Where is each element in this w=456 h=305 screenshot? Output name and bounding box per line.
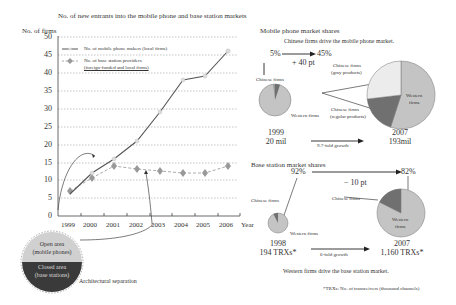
y-tick: 25	[44, 122, 52, 131]
mobile-2007-western-label-1: Western	[406, 93, 422, 98]
line-chart-title: No. of new entrants into the mobile phon…	[58, 12, 247, 20]
x-tick: 2002	[129, 221, 143, 229]
mobile-regular-label-1: Chinese firms	[331, 107, 359, 112]
mobile-from-pct: 5%	[270, 49, 281, 58]
mobile-regular-label-2: (regular products)	[330, 114, 366, 119]
footnote: *TRXs: No. of transceivers (thousand cha…	[323, 286, 419, 291]
mobile-year-to: 2007	[384, 128, 416, 137]
mobile-size-from: 20 mil	[260, 137, 292, 146]
base-2007-western-label-1: Western	[392, 217, 408, 222]
mobile-shares-subtitle: Chinese firms drive the mobile phone mar…	[284, 38, 394, 44]
y-tick: 30	[44, 104, 52, 113]
legend-glyphs	[62, 47, 78, 64]
figure-graphics	[0, 0, 456, 305]
mobile-shares-title: Mobile phone market shares	[260, 27, 340, 35]
x-tick: 2005	[196, 221, 210, 229]
base-1998-chinese-label: Chinese firms	[251, 198, 279, 203]
pie-mobile-2007	[367, 61, 435, 129]
pie-mobile-1999	[259, 84, 291, 116]
base-shares-title: Base station market shares	[251, 161, 325, 169]
base-change: − 10 pt	[344, 178, 367, 187]
mobile-gray-label-1: Chinese firms	[333, 63, 361, 68]
y-tick: 45	[44, 50, 52, 59]
mobile-to-pct: 45%	[317, 49, 332, 58]
mobile-growth: 9.7-fold growth	[317, 143, 348, 148]
y-tick: 40	[44, 68, 52, 77]
pie-base-2007	[377, 189, 425, 237]
mobile-2007-western-label-2: firms	[409, 100, 420, 105]
base-2007-chinese-label: Chinese firms	[332, 196, 360, 201]
base-size-from: 194 TRXs*	[256, 248, 300, 257]
mobile-1999-chinese-label: Chinese firms	[256, 77, 284, 82]
y-tick: 35	[44, 86, 52, 95]
base-year-from: 1998	[256, 239, 300, 248]
mobile-year-from: 1999	[260, 128, 292, 137]
mobile-size-to: 193mil	[384, 137, 416, 146]
open-area-label-2: (mobile phones)	[22, 249, 82, 255]
x-tick: 1999	[61, 221, 75, 229]
x-axis-label: Year	[241, 221, 254, 229]
legend-mobile: No. of mobile phone makers (local firms)	[84, 46, 167, 51]
x-tick: 2006	[219, 221, 233, 229]
y-tick: 5	[48, 193, 52, 202]
y-tick: 0	[48, 211, 52, 220]
mobile-change: + 40 pt	[292, 58, 315, 67]
y-tick: 10	[44, 175, 52, 184]
y-tick: 50	[44, 32, 52, 41]
x-tick: 2004	[174, 221, 188, 229]
x-tick: 2003	[151, 221, 165, 229]
pie-base-1998	[268, 213, 288, 233]
base-caption: Western firms drive the base station mar…	[283, 268, 389, 274]
closed-area-label-2: (base stations)	[22, 272, 82, 278]
base-to-pct: 82%	[401, 167, 416, 176]
base-from-pct: 92%	[291, 167, 306, 176]
y-tick: 20	[44, 140, 52, 149]
series-base-station-providers	[67, 162, 231, 195]
closed-area-label-1: Closed area	[22, 264, 82, 270]
y-tick: 15	[44, 158, 52, 167]
legend-base-2: (foreign-funded and local firms)	[84, 65, 149, 70]
x-tick: 2001	[106, 221, 120, 229]
open-area-label-1: Open area	[22, 241, 82, 247]
base-2007-western-label-2: firms	[395, 224, 406, 229]
architectural-separation-label: Architectural separation	[79, 278, 137, 284]
base-growth: 6-fold growth	[320, 252, 348, 257]
x-tick: 2000	[83, 221, 97, 229]
base-1998-western-label: Western firms	[290, 231, 318, 236]
mobile-gray-label-2: (gray products)	[331, 70, 362, 75]
base-year-to: 2007	[378, 239, 426, 248]
base-size-to: 1,160 TRXs*	[378, 248, 426, 257]
mobile-1999-western-label: Western firms	[291, 113, 319, 118]
legend-base-1: No. of base station providers	[84, 58, 142, 63]
